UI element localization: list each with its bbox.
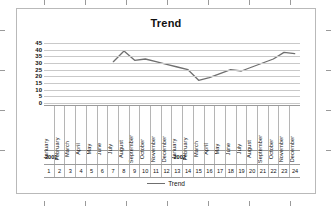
index-cell: 1 (44, 165, 55, 177)
index-cell: 11 (151, 165, 162, 177)
year-cell (215, 151, 226, 164)
ruler-tick (290, 201, 291, 206)
year-cell (108, 151, 119, 164)
year-cell (290, 151, 300, 164)
screenshot-root: Trend 051015202530354045 JanuaryFebruary… (0, 0, 331, 217)
gridline (44, 103, 300, 104)
gridline (44, 90, 300, 91)
index-cell: 13 (172, 165, 183, 177)
year-axis: 20012002 (44, 151, 300, 165)
ruler-tick (126, 0, 127, 5)
index-cell: 7 (108, 165, 119, 177)
gridline (44, 76, 300, 77)
index-cell: 14 (183, 165, 194, 177)
index-cell: 5 (87, 165, 98, 177)
index-cell: 22 (269, 165, 280, 177)
ruler-tick (0, 70, 5, 71)
index-cell: 18 (226, 165, 237, 177)
ruler-tick (326, 70, 331, 71)
chart-object[interactable]: Trend 051015202530354045 JanuaryFebruary… (16, 8, 316, 194)
year-cell (194, 151, 205, 164)
gridline (44, 56, 300, 57)
gridline (44, 50, 300, 51)
index-cell: 21 (258, 165, 269, 177)
year-cell (151, 151, 162, 164)
y-tick-label: 15 (35, 80, 42, 86)
ruler-tick (85, 201, 86, 206)
y-axis-labels: 051015202530354045 (23, 37, 42, 109)
legend-label: Trend (168, 180, 185, 187)
ruler-tick (326, 110, 331, 111)
index-cell: 24 (290, 165, 300, 177)
ruler-tick (167, 0, 168, 5)
chart-legend: Trend (17, 180, 315, 187)
ruler-tick (326, 30, 331, 31)
index-cell: 8 (119, 165, 130, 177)
gridline (44, 63, 300, 64)
plot-area (44, 43, 300, 103)
ruler-tick (126, 201, 127, 206)
gridline (44, 83, 300, 84)
index-cell: 19 (237, 165, 248, 177)
ruler-tick (0, 30, 5, 31)
ruler-tick (0, 110, 5, 111)
index-cell: 2 (55, 165, 66, 177)
year-cell (98, 151, 109, 164)
trend-line-swatch (147, 183, 165, 184)
year-cell (130, 151, 141, 164)
ruler-tick (208, 201, 209, 206)
index-cell: 6 (98, 165, 109, 177)
category-cell: December (290, 106, 300, 150)
index-cell: 20 (247, 165, 258, 177)
year-cell (226, 151, 237, 164)
year-cell (279, 151, 290, 164)
y-tick-label: 10 (35, 87, 42, 93)
y-tick-label: 5 (39, 93, 42, 99)
ruler-tick (326, 150, 331, 151)
year-cell (119, 151, 130, 164)
y-tick-label: 40 (35, 47, 42, 53)
year-cell (55, 151, 66, 164)
index-cell: 12 (162, 165, 173, 177)
ruler-tick (44, 201, 45, 206)
year-cell (65, 151, 76, 164)
ruler-tick (249, 0, 250, 5)
ruler-tick (44, 0, 45, 5)
y-tick-label: 0 (39, 100, 42, 106)
category-axis: JanuaryFebruaryMarchAprilMayJuneJulyAugu… (44, 105, 300, 151)
y-tick-label: 35 (35, 53, 42, 59)
index-cell: 15 (194, 165, 205, 177)
year-cell (87, 151, 98, 164)
year-cell (237, 151, 248, 164)
y-tick-label: 20 (35, 73, 42, 79)
ruler-tick (167, 201, 168, 206)
y-tick-label: 25 (35, 67, 42, 73)
year-cell (140, 151, 151, 164)
year-cell: 2002 (172, 151, 183, 164)
y-tick-label: 30 (35, 60, 42, 66)
gridline (44, 70, 300, 71)
index-cell: 10 (140, 165, 151, 177)
year-cell (205, 151, 216, 164)
ruler-tick (0, 150, 5, 151)
y-tick-label: 45 (35, 40, 42, 46)
index-cell: 16 (205, 165, 216, 177)
year-cell (258, 151, 269, 164)
year-cell (247, 151, 258, 164)
gridline (44, 96, 300, 97)
ruler-tick (85, 0, 86, 5)
index-cell: 23 (279, 165, 290, 177)
index-cell: 4 (76, 165, 87, 177)
ruler-tick (290, 0, 291, 5)
year-cell (162, 151, 173, 164)
gridline (44, 43, 300, 44)
index-cell: 9 (130, 165, 141, 177)
year-cell (183, 151, 194, 164)
index-cell: 17 (215, 165, 226, 177)
year-cell: 2001 (44, 151, 55, 164)
trend-series-line (44, 43, 300, 103)
ruler-tick (249, 201, 250, 206)
ruler-tick (208, 0, 209, 5)
chart-title: Trend (17, 17, 315, 29)
year-cell (76, 151, 87, 164)
